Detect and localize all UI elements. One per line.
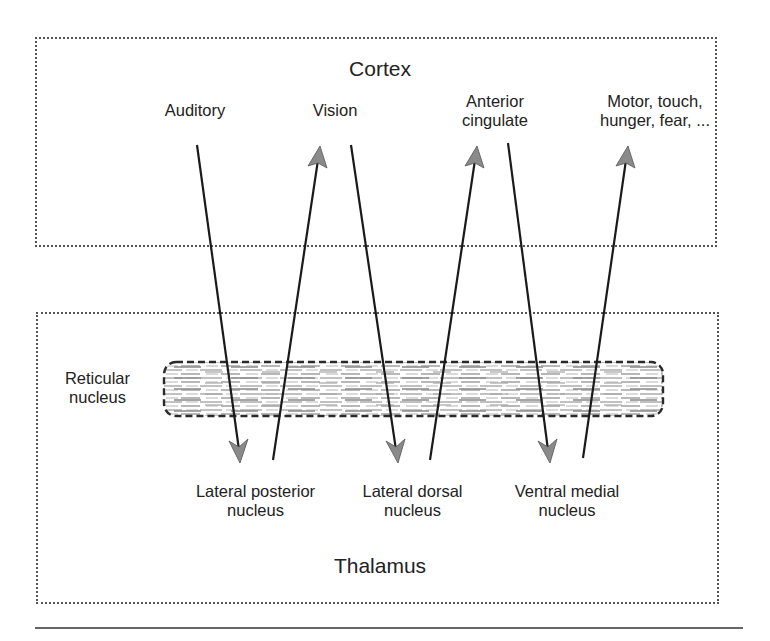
lateral-posterior-label-line1: Lateral posterior <box>168 482 343 501</box>
nucleus-lateral-dorsal: Lateral dorsal nucleus <box>340 482 485 521</box>
ventral-medial-label-line2: nucleus <box>492 501 642 520</box>
cortex-title: Cortex <box>340 57 420 82</box>
ventral-medial-label-line1: Ventral medial <box>492 482 642 501</box>
anterior-label: Anterior <box>440 92 550 111</box>
nucleus-lateral-posterior: Lateral posterior nucleus <box>168 482 343 521</box>
auditory-label: Auditory <box>140 101 250 120</box>
cortex-area-vision: Vision <box>290 101 380 120</box>
motor-label-line1: Motor, touch, <box>575 92 735 111</box>
nucleus-ventral-medial: Ventral medial nucleus <box>492 482 642 521</box>
vision-label: Vision <box>290 101 380 120</box>
lateral-dorsal-label-line2: nucleus <box>340 501 485 520</box>
cingulate-label: cingulate <box>440 111 550 130</box>
cortex-area-motor: Motor, touch, hunger, fear, ... <box>575 92 735 131</box>
motor-label-line2: hunger, fear, ... <box>575 111 735 130</box>
reticular-label-line1: Reticular <box>45 369 150 388</box>
reticular-nucleus-band <box>164 362 663 416</box>
cortex-area-auditory: Auditory <box>140 101 250 120</box>
cortex-area-anterior-cingulate: Anterior cingulate <box>440 92 550 131</box>
lateral-dorsal-label-line1: Lateral dorsal <box>340 482 485 501</box>
reticular-nucleus-label: Reticular nucleus <box>45 369 150 408</box>
reticular-label-line2: nucleus <box>45 388 150 407</box>
lateral-posterior-label-line2: nucleus <box>168 501 343 520</box>
thalamus-title: Thalamus <box>320 554 440 579</box>
